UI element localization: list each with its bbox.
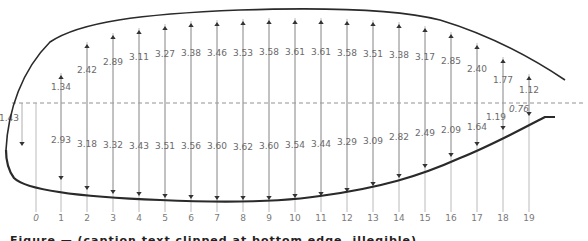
upper-value-label: 2.40: [467, 64, 487, 74]
station-number: 3: [110, 213, 116, 223]
airfoil-pressure-diagram: 1.431.342.932.423.182.893.323.113.433.27…: [0, 0, 588, 241]
station-number: 10: [289, 213, 301, 223]
station-number: 19: [523, 213, 535, 223]
upper-value-label: 3.27: [155, 49, 175, 59]
lower-value-label: 1.64: [467, 122, 487, 132]
lower-value-label: 2.82: [389, 132, 409, 142]
lower-value-label: 3.18: [77, 139, 97, 149]
upper-value-label: 3.46: [207, 48, 227, 58]
lower-value-label: 0.76: [509, 104, 529, 114]
station-number: 0: [33, 213, 39, 223]
upper-value-label: 2.85: [441, 56, 461, 66]
station-number: 6: [188, 213, 194, 223]
upper-value-label: 3.61: [285, 47, 305, 57]
upper-value-label: 3.38: [389, 50, 409, 60]
lower-value-label: 3.62: [233, 142, 253, 152]
upper-value-label: 3.11: [129, 52, 149, 62]
figure-caption-clipped: Figure — (caption text clipped at bottom…: [10, 234, 417, 241]
lower-value-label: 2.93: [51, 135, 71, 145]
station-number: 17: [471, 213, 482, 223]
value-labels: 1.431.342.932.423.182.893.323.113.433.27…: [0, 47, 539, 152]
station-number: 8: [240, 213, 246, 223]
upper-value-label: 1.12: [519, 85, 539, 95]
station-number: 15: [419, 213, 430, 223]
station-number: 9: [266, 213, 272, 223]
station-labels: 012345678910111213141516171819: [33, 213, 535, 223]
upper-value-label: 2.42: [77, 65, 97, 75]
lower-value-label: 3.51: [155, 141, 175, 151]
upper-value-label: 3.17: [415, 52, 435, 62]
lower-value-label: 3.43: [129, 141, 149, 151]
lower-value-label: 3.32: [103, 140, 123, 150]
lower-value-label: 3.09: [363, 136, 383, 146]
lower-value-label: 1.19: [486, 112, 506, 122]
upper-value-label: 2.89: [103, 57, 123, 67]
station-number: 18: [497, 213, 509, 223]
station-number: 11: [315, 213, 326, 223]
upper-value-label: 3.51: [363, 49, 383, 59]
station-number: 12: [341, 213, 352, 223]
lower-value-label: 2.09: [441, 125, 461, 135]
lower-value-label: 3.44: [311, 139, 331, 149]
station-number: 13: [367, 213, 378, 223]
lower-value-label: 3.56: [181, 141, 201, 151]
lower-value-label: 3.60: [207, 141, 227, 151]
lower-value-label: 3.60: [259, 141, 279, 151]
lower-value-label: 2.49: [415, 128, 435, 138]
station-number: 2: [84, 213, 90, 223]
upper-value-label: 3.58: [259, 47, 279, 57]
station-number: 1: [58, 213, 64, 223]
upper-value-label: 3.61: [311, 47, 331, 57]
upper-value-label: 1.77: [493, 75, 513, 85]
station-number: 14: [393, 213, 405, 223]
station-number: 16: [445, 213, 457, 223]
upper-value-label: 3.58: [337, 48, 357, 58]
lower-value-label: 3.29: [337, 137, 357, 147]
station-number: 4: [136, 213, 142, 223]
upper-value-label: 3.53: [233, 48, 253, 58]
station-number: 5: [162, 213, 168, 223]
station-number: 7: [214, 213, 220, 223]
lower-value-label: 3.54: [285, 140, 305, 150]
upper-value-label: 1.34: [51, 82, 71, 92]
upper-value-label: 3.38: [181, 48, 201, 58]
